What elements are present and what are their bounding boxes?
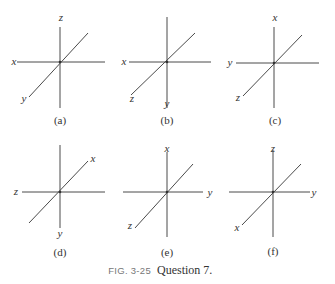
axis-label-diagonal-lower: z [127, 219, 133, 231]
axis-label-horizontal-left: x [121, 55, 127, 67]
diagonal-axis [29, 33, 88, 97]
panel-a: z x y (a) [11, 11, 105, 127]
origin-point [59, 191, 62, 194]
panel-label: (e) [161, 246, 174, 259]
axis-label-horizontal-left: x [11, 55, 17, 67]
axis-label-vertical-top: x [272, 11, 278, 23]
axis-label-diagonal-upper: x [90, 152, 96, 164]
axis-label-vertical-top: z [270, 142, 276, 154]
panel-label: (c) [269, 114, 282, 127]
panel-b: x z y (b) [121, 17, 211, 127]
axis-label-diagonal-lower: x [234, 221, 240, 233]
origin-point [166, 191, 169, 194]
panel-label: (f) [268, 245, 279, 258]
axis-label-vertical-top: z [58, 11, 64, 23]
origin-point [59, 61, 62, 64]
panel-c: x y z (c) [227, 11, 319, 127]
axis-label-vertical-bottom: y [57, 227, 63, 239]
panel-d: x z y (d) [13, 145, 105, 259]
coordinate-systems-figure: z x y (a) x z y (b) x y z (c) x z y (d) [0, 0, 335, 284]
panel-label: (a) [54, 114, 67, 127]
axis-label-vertical-top: x [164, 142, 170, 154]
axis-label-horizontal-right: y [207, 186, 213, 198]
axis-label-horizontal-left: y [227, 56, 233, 68]
panel-e: x y z (e) [123, 142, 213, 259]
origin-point [272, 191, 275, 194]
panel-label: (d) [54, 246, 67, 259]
axis-label-horizontal-right: y [311, 186, 317, 198]
panel-label: (b) [161, 114, 174, 127]
panel-f: z y x (f) [229, 142, 317, 258]
origin-point [166, 61, 169, 64]
axis-label-vertical-bottom: y [164, 97, 170, 109]
axis-label-diagonal-lower: z [129, 92, 135, 104]
diagonal-axis [131, 33, 195, 95]
axis-label-diagonal-lower: y [21, 92, 27, 104]
diagonal-axis [242, 164, 301, 225]
diagonal-axis [135, 164, 193, 228]
figure-number: FIG. 3-25 [108, 265, 151, 276]
origin-point [273, 62, 276, 65]
axis-label-diagonal-lower: z [235, 91, 241, 103]
axis-label-horizontal-left: z [13, 185, 19, 197]
figure-caption: Question 7. [157, 263, 212, 277]
diagonal-axis [243, 35, 302, 96]
